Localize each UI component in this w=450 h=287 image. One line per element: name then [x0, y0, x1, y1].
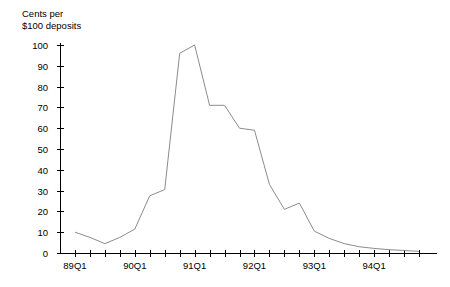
- chart-container: Cents per$100 deposits 01020304050607080…: [0, 0, 450, 287]
- data-series-line: [75, 45, 419, 251]
- plot-area: [0, 0, 450, 287]
- axis-lines: [61, 43, 438, 254]
